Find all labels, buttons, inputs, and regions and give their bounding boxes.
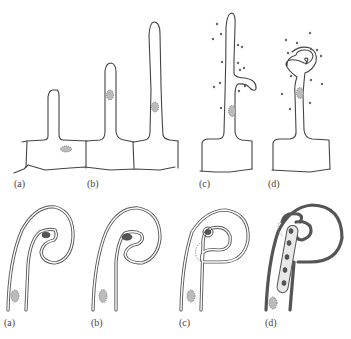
root-hair-b2 [134, 22, 178, 142]
nucleus-d-bottom [269, 297, 277, 309]
top-panel-b2 [134, 22, 178, 168]
top-panel-b [87, 63, 134, 168]
bottom-label-d: (d) [265, 317, 277, 329]
cell-wall-a-left [26, 141, 27, 167]
nucleus-b2 [152, 102, 159, 112]
cell-bottom-d [272, 169, 330, 172]
top-panel-c [200, 13, 256, 172]
root-hair-a [22, 90, 87, 142]
bottom-label-a: (a) [4, 317, 15, 329]
root-hair-d [273, 47, 330, 170]
top-row: (a) (b) (c) (d) [14, 13, 330, 190]
bacteria-cluster-c [205, 230, 211, 235]
nucleus-a-bottom [11, 290, 19, 302]
top-panel-a [22, 90, 87, 168]
root-hair-infection-diagram: (a) (b) (c) (d) [0, 0, 351, 339]
curled-hair-d [266, 205, 342, 310]
bacteria-dots-c [212, 23, 246, 109]
epidermis-bottom-wall [14, 165, 175, 173]
bottom-panel-b [93, 208, 160, 310]
bottom-panel-a [8, 207, 73, 310]
bottom-row: (a) (b) (c) (d) [4, 205, 342, 329]
bottom-label-c: (c) [179, 317, 190, 329]
top-label-a: (a) [14, 178, 25, 190]
cell-wall-b-right [133, 142, 134, 168]
bottom-label-b: (b) [91, 317, 103, 329]
root-hair-c [202, 13, 256, 171]
bottom-panel-d [266, 205, 342, 310]
nucleus-b-bottom [99, 290, 107, 303]
bottom-panel-c [181, 210, 248, 310]
nucleus-c-bottom [187, 290, 195, 302]
nucleus-a [61, 146, 72, 152]
bacteria-cluster-a [42, 232, 50, 238]
nucleus-b [107, 90, 114, 100]
top-label-b: (b) [87, 178, 99, 190]
cell-bottom-c [200, 169, 252, 172]
top-panel-d [272, 32, 330, 172]
root-hair-b [87, 63, 134, 142]
bacteria-cluster-b [122, 234, 132, 240]
top-label-d: (d) [268, 178, 280, 190]
top-label-c: (c) [199, 178, 210, 190]
nucleus-d [297, 88, 304, 99]
bacteria-dots-d [281, 32, 323, 110]
nucleus-c [229, 106, 236, 117]
